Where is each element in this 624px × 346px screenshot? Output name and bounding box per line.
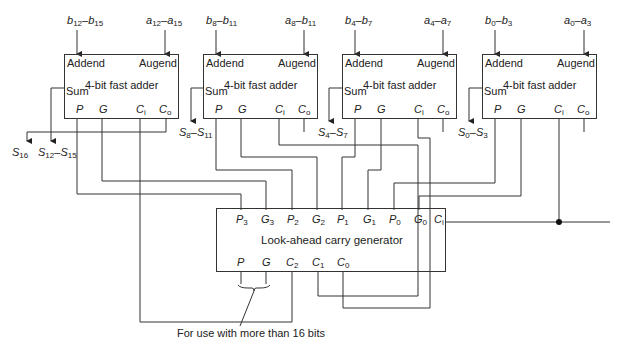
augend-label: Augend [278,58,316,69]
junction-dot [556,219,562,225]
addend-label: Addend [345,58,383,69]
lookahead-top-pin: Ci [434,214,444,227]
pin-ci: Ci [275,104,285,117]
adder-title: 4-bit fast adder [363,80,436,91]
addend-input-label: b12–b15 [67,15,103,28]
adder-title: 4-bit fast adder [85,80,158,91]
lookahead-top-pin: G1 [363,214,376,227]
pin-g: G [517,104,526,115]
lookahead-bottom-pin: G [262,257,271,270]
lookahead-top-pin: G0 [414,214,427,227]
lookahead-top-pin: G2 [312,214,325,227]
lookahead-title: Look-ahead carry generator [261,235,403,247]
sum-output-label: S12–S15 [38,147,77,160]
lookahead-top-pin: P2 [287,214,299,227]
sum-output-label: S8–S11 [179,127,213,140]
lookahead-top-pin: P0 [389,214,401,227]
sum-output-label: S0–S3 [458,127,488,140]
addend-label: Addend [67,58,105,69]
augend-input-label: a4–a7 [424,15,451,28]
pin-co: Co [298,104,310,117]
pin-p: P [76,104,83,115]
augend-label: Augend [557,58,595,69]
pin-p: P [354,104,361,115]
lookahead-bottom-pin: C2 [286,257,298,270]
lookahead-top-pin: P1 [337,214,349,227]
augend-label: Augend [139,58,177,69]
note-text: For use with more than 16 bits [177,328,325,339]
lookahead-bottom-pin: C1 [312,257,324,270]
carry-out-label: S16 [12,147,28,160]
augend-input-label: a8–b11 [285,15,316,28]
wiring [0,0,624,346]
lookahead-bottom-pin: P [237,257,244,270]
pin-ci: Ci [554,104,564,117]
pin-co: Co [159,104,171,117]
addend-label: Addend [485,58,523,69]
lookahead-bottom-pin: C0 [337,257,349,270]
pin-p: P [494,104,501,115]
sum-output-label: S4–S7 [318,127,348,140]
pin-g: G [99,104,108,115]
pin-g: G [377,104,386,115]
augend-input-label: a0–a3 [564,15,591,28]
augend-label: Augend [417,58,455,69]
pin-ci: Ci [136,104,146,117]
augend-input-label: a12–a15 [146,15,182,28]
pin-co: Co [437,104,449,117]
pin-ci: Ci [414,104,424,117]
pin-co: Co [577,104,589,117]
addend-label: Addend [206,58,244,69]
pin-g: G [238,104,247,115]
lookahead-top-pin: G3 [261,214,274,227]
lookahead-top-pin: P3 [236,214,248,227]
adder-title: 4-bit fast adder [224,80,297,91]
addend-input-label: b4–b7 [345,15,372,28]
adder-title: 4-bit fast adder [503,80,576,91]
addend-input-label: b0–b3 [485,15,512,28]
addend-input-label: b8–b11 [206,15,237,28]
pin-p: P [215,104,222,115]
